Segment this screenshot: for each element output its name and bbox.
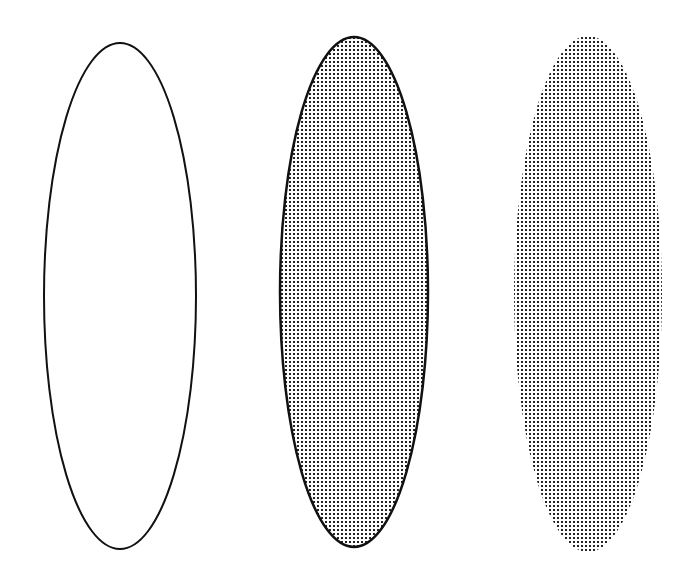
drawing-canvas — [0, 0, 694, 582]
ellipse-fill-only — [514, 36, 662, 552]
ellipse-outline-only — [44, 43, 196, 549]
ellipse-outline-and-fill — [280, 37, 428, 547]
